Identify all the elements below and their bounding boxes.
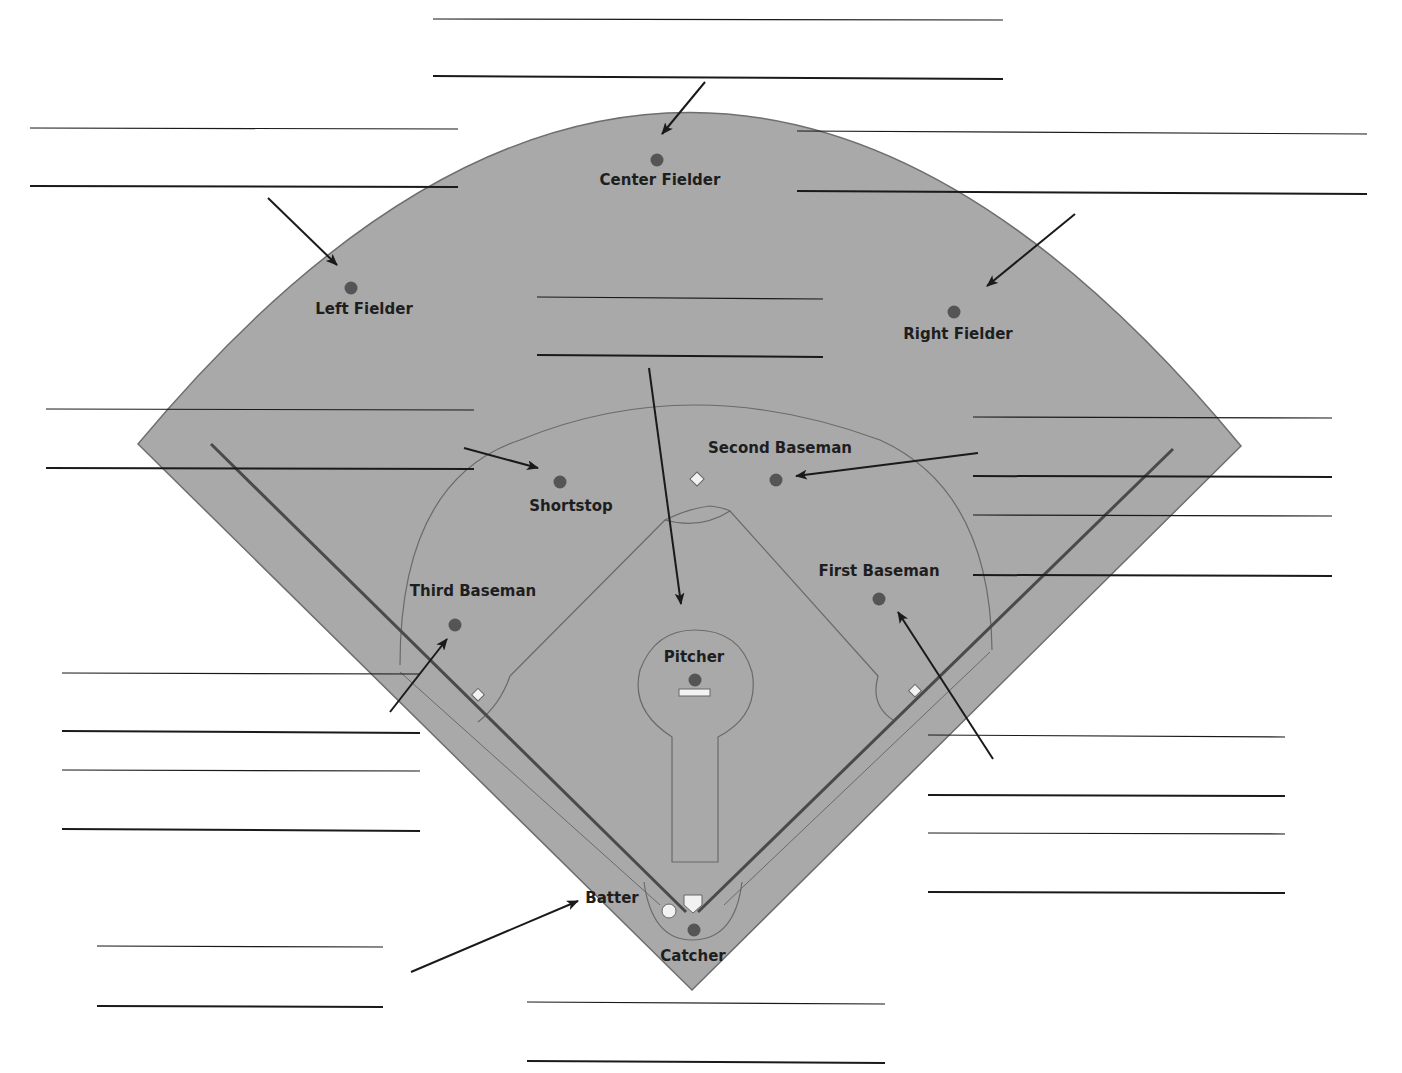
answer-line[interactable]: [527, 1002, 885, 1004]
answer-line[interactable]: [433, 19, 1003, 20]
answer-line[interactable]: [928, 892, 1285, 893]
blank-batter[interactable]: [97, 901, 578, 1007]
second-baseman-label: Second Baseman: [708, 439, 852, 457]
baseball-field-diagram: Center FielderLeft FielderRight FielderS…: [0, 0, 1402, 1073]
shortstop-dot: [554, 476, 567, 489]
answer-line[interactable]: [97, 1006, 383, 1007]
answer-line[interactable]: [973, 575, 1332, 576]
blank-extra-right[interactable]: [928, 833, 1285, 893]
pointer-arrow-icon: [268, 198, 337, 265]
center-fielder-label: Center Fielder: [600, 171, 721, 189]
left-fielder-dot: [345, 282, 358, 295]
batter-dot: [662, 904, 676, 918]
shortstop-label: Shortstop: [529, 497, 613, 515]
blank-catcher[interactable]: [527, 1002, 885, 1063]
answer-line[interactable]: [46, 468, 474, 469]
first-baseman-dot: [873, 593, 886, 606]
answer-line[interactable]: [797, 131, 1367, 134]
center-fielder-dot: [651, 154, 664, 167]
third-baseman-label: Third Baseman: [410, 582, 537, 600]
catcher-dot: [688, 924, 701, 937]
first-baseman-label: First Baseman: [818, 562, 939, 580]
left-fielder-label: Left Fielder: [315, 300, 413, 318]
answer-line[interactable]: [97, 946, 383, 947]
batter-label: Batter: [585, 889, 639, 907]
answer-line[interactable]: [62, 770, 420, 771]
answer-line[interactable]: [62, 731, 420, 733]
answer-line[interactable]: [62, 673, 420, 674]
answer-line[interactable]: [928, 833, 1285, 834]
pitcher-label: Pitcher: [664, 648, 725, 666]
answer-line[interactable]: [928, 735, 1285, 737]
answer-line[interactable]: [928, 795, 1285, 796]
answer-line[interactable]: [433, 76, 1003, 79]
catcher-label: Catcher: [660, 947, 726, 965]
answer-line[interactable]: [527, 1061, 885, 1063]
second-baseman-dot: [770, 474, 783, 487]
answer-line[interactable]: [973, 476, 1332, 477]
right-fielder-dot: [948, 306, 961, 319]
right-fielder-label: Right Fielder: [903, 325, 1013, 343]
answer-line[interactable]: [62, 829, 420, 831]
pitcher-dot: [689, 674, 702, 687]
pointer-arrow-icon: [411, 901, 578, 972]
field-outfield: [138, 112, 1241, 990]
pitchers-rubber: [679, 689, 710, 696]
answer-line[interactable]: [30, 186, 458, 187]
third-baseman-dot: [449, 619, 462, 632]
blank-extra-left[interactable]: [62, 770, 420, 831]
answer-line[interactable]: [30, 128, 458, 129]
